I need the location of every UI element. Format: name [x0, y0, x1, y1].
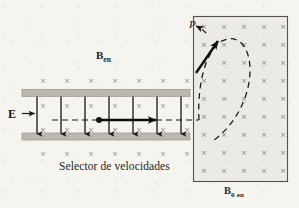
svg-text:×: ×	[221, 111, 227, 122]
region-field-label: B0 en	[224, 186, 244, 199]
svg-text:×: ×	[241, 57, 247, 68]
svg-text:×: ×	[261, 57, 267, 68]
svg-text:×: ×	[280, 147, 286, 158]
svg-text:×: ×	[221, 93, 227, 104]
svg-text:×: ×	[261, 147, 267, 158]
svg-text:×: ×	[136, 148, 142, 159]
diagram-vector-layer: ××××× ××××× ××××× ××××× ××××× ××××× ××××…	[0, 0, 299, 208]
svg-text:×: ×	[221, 21, 227, 32]
figure-caption: Selector de velocidades	[59, 161, 170, 173]
svg-text:×: ×	[280, 111, 286, 122]
figure-canvas: ××××× ××××× ××××× ××××× ××××× ××××× ××××…	[0, 0, 299, 208]
svg-text:×: ×	[64, 75, 70, 86]
svg-text:×: ×	[88, 75, 94, 86]
svg-text:×: ×	[160, 75, 166, 86]
svg-text:×: ×	[241, 21, 247, 32]
svg-text:×: ×	[184, 148, 190, 159]
svg-text:×: ×	[201, 165, 207, 176]
svg-text:×: ×	[112, 148, 118, 159]
svg-text:×: ×	[136, 100, 142, 111]
svg-text:×: ×	[261, 165, 267, 176]
svg-text:×: ×	[261, 21, 267, 32]
svg-text:×: ×	[261, 39, 267, 50]
svg-text:×: ×	[40, 75, 46, 86]
svg-text:×: ×	[201, 39, 207, 50]
point-p-label: P	[189, 19, 196, 30]
svg-text:×: ×	[221, 75, 227, 86]
selector-field-subscript: en	[103, 55, 111, 64]
svg-text:×: ×	[184, 75, 190, 86]
svg-text:×: ×	[112, 100, 118, 111]
top-plate	[22, 90, 190, 97]
selector-cross-field: ××× ××× × ××× ××× × ××× ××× × ××× ××× ×	[40, 75, 190, 159]
charged-particle-dot	[96, 117, 102, 123]
svg-text:×: ×	[160, 148, 166, 159]
electric-field-label: E	[8, 108, 16, 120]
svg-text:×: ×	[201, 147, 207, 158]
region-field-subscript: 0 en	[231, 191, 244, 199]
svg-text:×: ×	[112, 75, 118, 86]
selector-field-label: Ben	[96, 50, 111, 64]
svg-text:×: ×	[201, 93, 207, 104]
svg-text:×: ×	[160, 100, 166, 111]
svg-text:×: ×	[280, 93, 286, 104]
svg-text:×: ×	[221, 57, 227, 68]
svg-text:×: ×	[280, 57, 286, 68]
svg-text:×: ×	[136, 75, 142, 86]
svg-text:×: ×	[184, 100, 190, 111]
svg-text:×: ×	[64, 100, 70, 111]
svg-text:×: ×	[40, 148, 46, 159]
svg-text:×: ×	[241, 165, 247, 176]
svg-text:×: ×	[261, 129, 267, 140]
svg-text:×: ×	[280, 75, 286, 86]
svg-text:×: ×	[221, 165, 227, 176]
svg-text:×: ×	[88, 148, 94, 159]
svg-text:×: ×	[261, 93, 267, 104]
svg-text:×: ×	[241, 129, 247, 140]
svg-text:×: ×	[221, 147, 227, 158]
region-field-symbol: B	[224, 185, 231, 196]
svg-text:×: ×	[64, 148, 70, 159]
svg-text:×: ×	[241, 111, 247, 122]
svg-text:×: ×	[201, 111, 207, 122]
svg-text:×: ×	[261, 75, 267, 86]
svg-text:×: ×	[241, 75, 247, 86]
svg-text:×: ×	[261, 111, 267, 122]
bottom-plate	[22, 133, 190, 140]
svg-text:×: ×	[88, 100, 94, 111]
svg-text:×: ×	[40, 100, 46, 111]
svg-text:×: ×	[241, 147, 247, 158]
svg-text:×: ×	[280, 39, 286, 50]
svg-text:×: ×	[280, 129, 286, 140]
svg-text:×: ×	[280, 21, 286, 32]
svg-text:×: ×	[280, 165, 286, 176]
svg-text:×: ×	[201, 129, 207, 140]
